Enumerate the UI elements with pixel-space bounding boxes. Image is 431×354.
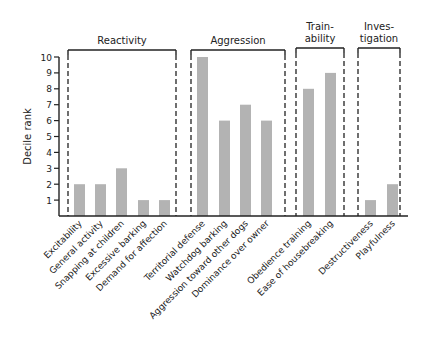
bar-dominance-over-owner (261, 121, 272, 216)
y-tick-label: 5 (46, 132, 52, 142)
decile-rank-bar-chart: Decile rank ReactivityAggressionTrain-ab… (0, 0, 431, 354)
bar-demand-for-affection (159, 200, 170, 216)
group-title: tigation (360, 33, 398, 44)
bar-obedience-training (303, 89, 314, 216)
bar-ease-of-housebreaking (325, 73, 336, 216)
x-axis-tick-labels: ExcitabilityGeneral activitySnapping at … (42, 218, 397, 321)
y-tick-label: 2 (46, 180, 52, 190)
y-tick-label: 3 (46, 164, 52, 174)
y-tick-label: 1 (46, 196, 52, 206)
y-tick-label: 6 (46, 116, 52, 126)
bar-aggression-toward-other-dogs (240, 105, 251, 216)
y-tick-label: 10 (41, 53, 53, 63)
y-tick-label: 7 (46, 100, 52, 110)
y-axis-label-group: Decile rank (22, 108, 33, 165)
group-title: Inves- (364, 21, 395, 32)
group-title: Train- (305, 21, 334, 32)
bar-destructiveness (365, 200, 376, 216)
group-title: Reactivity (97, 35, 147, 46)
chart-canvas: Decile rank ReactivityAggressionTrain-ab… (0, 0, 431, 354)
bar-territorial-defense (197, 57, 208, 216)
bar-general-activity (95, 184, 106, 216)
y-axis-label: Decile rank (22, 108, 33, 165)
bar-excitability (74, 184, 85, 216)
bars (74, 57, 398, 216)
y-tick-label: 8 (46, 84, 52, 94)
bar-excessive-barking (138, 200, 149, 216)
bar-playfulness (387, 184, 398, 216)
y-tick-label: 4 (46, 148, 52, 158)
y-tick-label: 9 (46, 68, 52, 78)
group-title: Aggression (210, 35, 265, 46)
bar-snapping-at-children (116, 168, 127, 216)
group-title: ability (305, 33, 336, 44)
bar-watchdog-barking (219, 121, 230, 216)
